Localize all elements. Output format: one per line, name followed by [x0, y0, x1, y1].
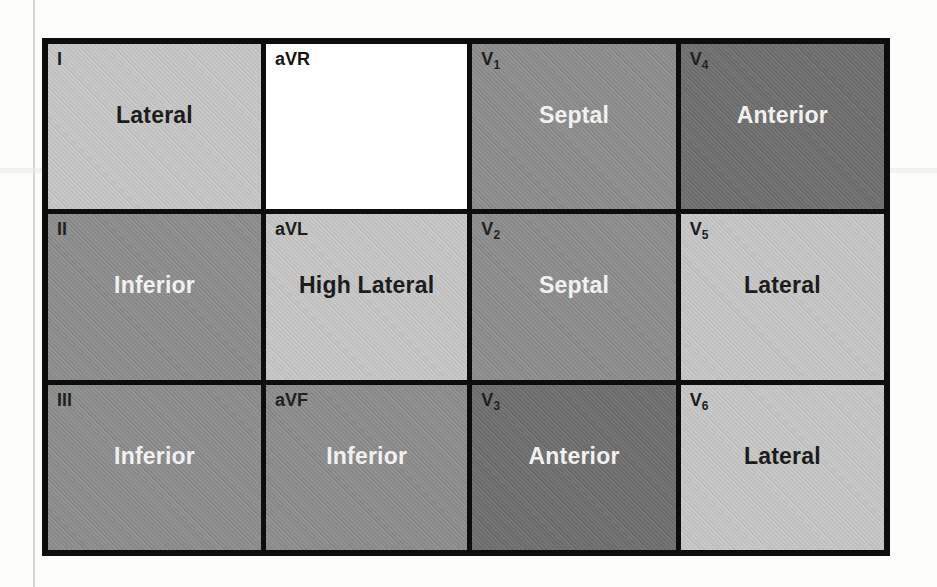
territory-label: Lateral — [681, 385, 884, 528]
territory-label: Anterior — [681, 44, 884, 187]
grid-cell-III: III Inferior — [48, 385, 261, 550]
ecg-lead-territory-grid: I Lateral aVR V1 Septal V4 Anterior II I… — [42, 38, 890, 556]
grid-cell-I: I Lateral — [48, 44, 261, 209]
scanned-page: { "figure": { "description": "ECG lead l… — [0, 0, 937, 587]
territory-label: Septal — [472, 214, 675, 357]
grid-cell-V2: V2 Septal — [472, 214, 675, 379]
territory-label: Inferior — [48, 385, 261, 528]
grid-cell-aVR: aVR — [266, 44, 467, 209]
grid-cell-V5: V5 Lateral — [681, 214, 884, 379]
grid-cell-aVL: aVL High Lateral — [266, 214, 467, 379]
territory-label: Lateral — [48, 44, 261, 187]
territory-label: High Lateral — [266, 214, 467, 357]
territory-label: Lateral — [681, 214, 884, 357]
territory-label: Anterior — [472, 385, 675, 528]
territory-label: Septal — [472, 44, 675, 187]
grid-cell-V3: V3 Anterior — [472, 385, 675, 550]
grid-cell-V4: V4 Anterior — [681, 44, 884, 209]
grid-cell-V6: V6 Lateral — [681, 385, 884, 550]
grid-cell-V1: V1 Septal — [472, 44, 675, 209]
page-edge-scan-line — [33, 0, 35, 587]
territory-label: Inferior — [266, 385, 467, 528]
grid-cell-II: II Inferior — [48, 214, 261, 379]
territory-label: Inferior — [48, 214, 261, 357]
territory-label — [266, 44, 467, 187]
grid-cell-aVF: aVF Inferior — [266, 385, 467, 550]
